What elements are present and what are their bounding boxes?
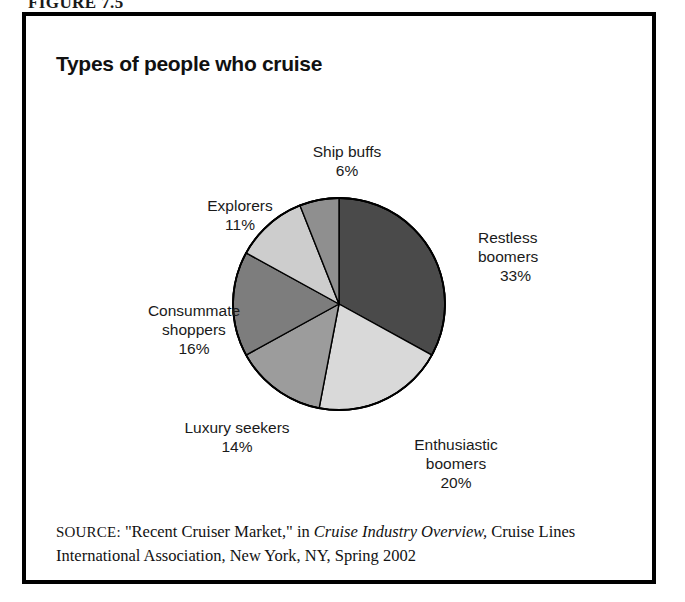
pie-label-ship-buffs: Ship buffs 6% (288, 142, 406, 180)
pie-label-luxury-seekers-name: Luxury seekers (162, 418, 312, 437)
source-label: SOURCE: (56, 524, 121, 540)
pie-label-luxury-seekers: Luxury seekers 14% (162, 418, 312, 456)
source-publication-title: Cruise Industry Overview, (314, 522, 487, 541)
pie-label-enthusiastic-boomers-name1: Enthusiastic (396, 435, 516, 454)
pie-label-explorers: Explorers 11% (184, 196, 296, 234)
pie-label-luxury-seekers-value: 14% (162, 437, 312, 456)
pie-label-consummate-shoppers-value: 16% (130, 339, 258, 358)
pie-label-restless-boomers-name1: Restless (478, 228, 598, 247)
pie-label-enthusiastic-boomers-name2: boomers (396, 454, 516, 473)
pie-label-enthusiastic-boomers-value: 20% (396, 473, 516, 492)
pie-label-restless-boomers-value: 33% (478, 266, 598, 285)
pie-label-consummate-shoppers: Consummate shoppers 16% (130, 301, 258, 358)
pie-label-ship-buffs-value: 6% (288, 161, 406, 180)
pie-label-restless-boomers: Restless boomers 33% (478, 228, 598, 285)
figure-frame: Types of people who cruise Ship buffs 6%… (22, 12, 656, 584)
pie-label-consummate-shoppers-name2: shoppers (130, 320, 258, 339)
pie-label-consummate-shoppers-name1: Consummate (130, 301, 258, 320)
pie-label-explorers-value: 11% (184, 215, 296, 234)
source-text-part1: "Recent Cruiser Market," in (121, 522, 314, 541)
pie-chart-plot-area: Ship buffs 6% Explorers 11% Restless boo… (26, 16, 652, 486)
pie-label-explorers-name: Explorers (184, 196, 296, 215)
source-note: SOURCE: "Recent Cruiser Market," in Crui… (56, 520, 630, 567)
pie-label-restless-boomers-name2: boomers (478, 247, 598, 266)
pie-label-ship-buffs-name: Ship buffs (288, 142, 406, 161)
pie-label-enthusiastic-boomers: Enthusiastic boomers 20% (396, 435, 516, 492)
